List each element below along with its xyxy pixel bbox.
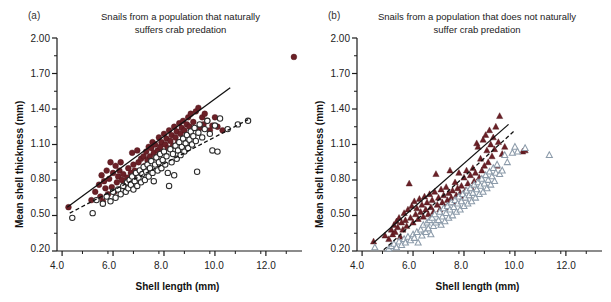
data-point-open-circle <box>200 135 205 140</box>
trend-line-dashed <box>70 120 248 213</box>
data-point-filled-circle <box>291 54 297 60</box>
data-point-filled-circle <box>99 172 105 178</box>
data-point-open-circle <box>196 130 201 135</box>
data-point-filled-circle <box>108 159 114 165</box>
data-point-filled-triangle <box>493 123 499 129</box>
data-point-filled-triangle <box>486 127 492 133</box>
data-point-open-circle <box>150 170 155 175</box>
data-point-open-triangle <box>522 145 528 151</box>
data-point-open-circle <box>194 169 199 174</box>
data-point-filled-triangle <box>407 214 413 220</box>
data-point-open-circle <box>100 201 105 206</box>
panel-b-plot <box>303 0 608 302</box>
data-point-filled-circle <box>190 119 196 125</box>
data-point-open-circle <box>108 199 113 204</box>
data-point-open-circle <box>212 123 217 128</box>
data-point-open-circle <box>215 149 220 154</box>
data-point-open-triangle <box>504 159 510 165</box>
data-point-filled-triangle <box>452 179 458 185</box>
data-point-open-circle <box>113 195 118 200</box>
data-point-open-circle <box>192 125 197 130</box>
data-point-filled-triangle <box>502 143 508 149</box>
trend-line-solid <box>67 88 230 208</box>
data-point-filled-triangle <box>470 165 476 171</box>
data-point-filled-triangle <box>429 197 435 203</box>
data-point-filled-circle <box>92 189 98 195</box>
data-point-filled-triangle <box>497 113 503 119</box>
data-point-open-circle <box>202 126 207 131</box>
data-point-filled-triangle <box>443 184 449 190</box>
data-point-filled-triangle <box>484 147 490 153</box>
data-point-open-circle <box>70 215 75 220</box>
data-point-filled-circle <box>202 111 208 117</box>
data-point-open-circle <box>151 178 156 183</box>
data-point-open-circle <box>207 131 212 136</box>
data-point-filled-triangle <box>433 171 439 177</box>
data-point-open-circle <box>217 116 222 121</box>
data-point-filled-circle <box>118 159 124 165</box>
data-point-open-circle <box>170 151 175 156</box>
data-point-filled-triangle <box>447 167 453 173</box>
data-point-filled-triangle <box>485 159 491 165</box>
data-point-open-triangle <box>546 152 552 158</box>
data-point-open-circle <box>164 154 169 159</box>
panel-b: (b) Snails from a population that does n… <box>303 0 608 302</box>
data-point-open-circle <box>205 118 210 123</box>
data-point-filled-circle <box>103 185 109 191</box>
data-point-filled-circle <box>104 168 110 174</box>
data-point-open-triangle <box>372 244 378 250</box>
data-point-open-circle <box>193 138 198 143</box>
data-point-filled-circle <box>134 148 140 154</box>
data-point-open-circle <box>171 173 176 178</box>
data-point-open-circle <box>165 170 170 175</box>
data-point-filled-triangle <box>458 183 464 189</box>
data-point-filled-triangle <box>489 153 495 159</box>
panel-a: (a) Snails from a population that natura… <box>0 0 305 302</box>
data-point-open-circle <box>197 122 202 127</box>
data-point-open-circle <box>90 210 95 215</box>
data-point-open-circle <box>118 192 123 197</box>
data-point-filled-triangle <box>406 180 412 186</box>
data-point-filled-circle <box>113 163 119 169</box>
data-point-open-circle <box>210 148 215 153</box>
data-point-open-triangle <box>494 161 500 167</box>
panel-a-plot <box>0 0 305 302</box>
data-point-open-circle <box>166 183 171 188</box>
figure-root: (a) Snails from a population that natura… <box>0 0 611 302</box>
